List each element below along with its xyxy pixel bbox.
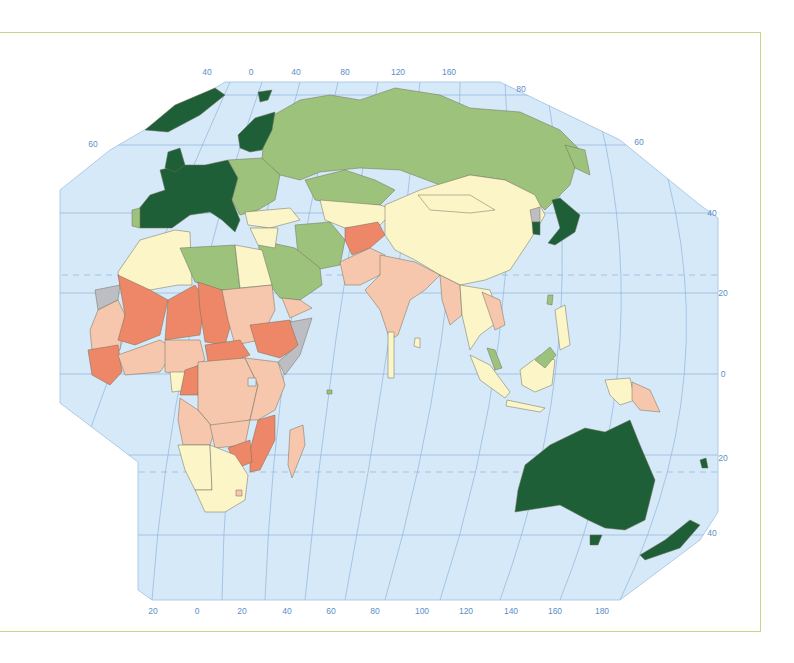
lon-label-bottom: 140 — [504, 606, 518, 616]
lon-label-bottom: 160 — [548, 606, 562, 616]
region-maldives — [388, 332, 394, 378]
region-lesotho — [236, 490, 242, 496]
lon-label-bottom: 40 — [282, 606, 291, 616]
lat-label-right: 0 — [721, 369, 726, 379]
lon-label-bottom: 20 — [148, 606, 157, 616]
lon-label-bottom: 80 — [370, 606, 379, 616]
lon-label-bottom: 120 — [459, 606, 473, 616]
lat-label-right: 20 — [718, 453, 727, 463]
region-dr-congo — [198, 358, 258, 430]
lon-label-bottom: 0 — [195, 606, 200, 616]
region-lake-victoria — [248, 378, 256, 386]
lat-label-left: 60 — [88, 139, 97, 149]
lat-label-right: 80 — [516, 84, 525, 94]
lon-label-bottom: 20 — [237, 606, 246, 616]
lon-label-bottom: 180 — [595, 606, 609, 616]
region-taiwan — [547, 295, 553, 305]
lon-label-top: 0 — [249, 67, 254, 77]
region-seychelles — [327, 390, 332, 394]
lon-label-top: 80 — [340, 67, 349, 77]
region-sri-lanka — [414, 338, 420, 348]
lon-label-top: 40 — [202, 67, 211, 77]
world-map — [0, 0, 794, 663]
lon-label-top: 160 — [442, 67, 456, 77]
lon-label-top: 40 — [291, 67, 300, 77]
lon-label-bottom: 100 — [415, 606, 429, 616]
lon-label-bottom: 60 — [326, 606, 335, 616]
lat-label-right: 40 — [707, 528, 716, 538]
lat-label-right: 60 — [634, 137, 643, 147]
region-portugal — [132, 208, 140, 228]
lon-label-top: 120 — [391, 67, 405, 77]
lat-label-right: 20 — [718, 288, 727, 298]
region-south-korea — [532, 222, 540, 235]
lat-label-right: 40 — [707, 208, 716, 218]
